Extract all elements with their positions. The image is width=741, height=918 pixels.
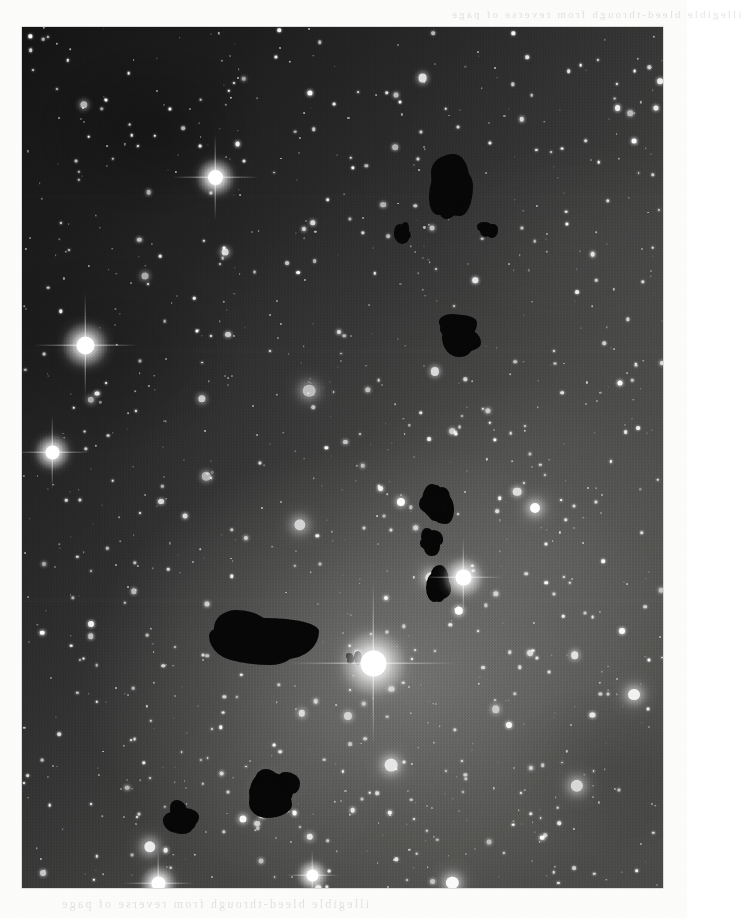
field-star [456, 126, 459, 129]
faint-field-star [591, 305, 593, 307]
faint-field-star [338, 254, 339, 255]
faint-field-star [308, 28, 310, 30]
field-star [579, 64, 582, 67]
field-star [652, 247, 655, 250]
field-star [146, 634, 149, 637]
faint-field-star [378, 822, 380, 824]
field-star [361, 797, 364, 800]
field-star [221, 257, 224, 260]
faint-field-star [28, 641, 30, 643]
field-star [633, 70, 636, 73]
field-star [640, 531, 644, 535]
field-star [512, 823, 515, 826]
field-star [74, 160, 77, 163]
faint-field-star [127, 413, 129, 415]
faint-field-star [418, 747, 420, 749]
field-star [235, 142, 240, 147]
field-star [227, 791, 230, 794]
faint-field-star [285, 592, 287, 594]
faint-field-star [269, 314, 271, 316]
faint-field-star [633, 399, 635, 401]
nebula-lobe [420, 538, 438, 549]
faint-field-star [552, 540, 554, 542]
field-star [385, 759, 398, 772]
field-star [82, 657, 85, 660]
faint-field-star [167, 169, 168, 170]
field-star [174, 646, 176, 648]
field-star [410, 798, 413, 801]
field-star [402, 682, 405, 685]
dark-nebula [478, 222, 496, 236]
field-star [164, 320, 167, 323]
star-field-photograph [22, 27, 663, 888]
field-star [364, 737, 368, 741]
field-star [383, 514, 386, 517]
faint-field-star [163, 476, 165, 478]
field-star [333, 391, 335, 393]
faint-field-star [613, 348, 615, 350]
field-star [529, 812, 533, 816]
field-star [42, 38, 45, 41]
faint-field-star [307, 393, 309, 395]
faint-field-star [300, 362, 301, 363]
field-star [552, 871, 555, 874]
faint-field-star [406, 823, 408, 825]
bright-star [463, 577, 464, 578]
faint-field-star [485, 172, 487, 174]
dark-nebula [422, 527, 444, 553]
faint-field-star [616, 678, 618, 680]
dark-nebula [437, 312, 482, 352]
faint-field-star [233, 194, 234, 195]
field-star [193, 297, 196, 300]
field-star [294, 130, 297, 133]
faint-field-star [310, 378, 312, 380]
field-star [495, 509, 499, 513]
faint-field-star [574, 706, 576, 708]
faint-field-star [256, 98, 258, 100]
faint-field-star [590, 159, 592, 161]
faint-field-star [127, 694, 129, 696]
faint-field-star [336, 850, 338, 852]
faint-field-star [229, 55, 231, 57]
field-star [597, 161, 600, 164]
field-star [406, 879, 408, 881]
field-star [167, 568, 170, 571]
field-star [296, 271, 300, 275]
field-star [230, 574, 234, 578]
faint-field-star [607, 666, 609, 668]
field-star [112, 480, 115, 483]
field-star [584, 139, 588, 143]
faint-field-star [467, 471, 468, 472]
faint-field-star [55, 254, 57, 256]
faint-field-star [375, 94, 377, 96]
field-star [561, 391, 565, 395]
faint-field-star [254, 830, 256, 832]
field-star [181, 751, 183, 753]
faint-field-star [199, 122, 201, 124]
faint-field-star [377, 862, 379, 864]
faint-field-star [37, 475, 39, 477]
faint-field-star [44, 869, 46, 871]
field-star [95, 391, 100, 396]
field-star [510, 432, 513, 435]
field-star [498, 496, 502, 500]
faint-field-star [449, 462, 450, 463]
field-star [487, 840, 492, 845]
faint-field-star [58, 164, 59, 165]
faint-field-star [163, 104, 165, 106]
faint-field-star [497, 77, 499, 79]
field-star [357, 91, 359, 93]
faint-field-star [249, 760, 251, 762]
faint-field-star [235, 43, 236, 44]
faint-field-star [571, 578, 573, 580]
field-star [219, 725, 223, 729]
faint-field-star [165, 358, 167, 360]
faint-field-star [62, 433, 64, 435]
field-star [362, 526, 365, 529]
field-star [541, 763, 545, 767]
faint-field-star [165, 498, 167, 500]
faint-field-star [225, 156, 227, 158]
field-star [545, 542, 548, 545]
faint-field-star [563, 363, 565, 365]
